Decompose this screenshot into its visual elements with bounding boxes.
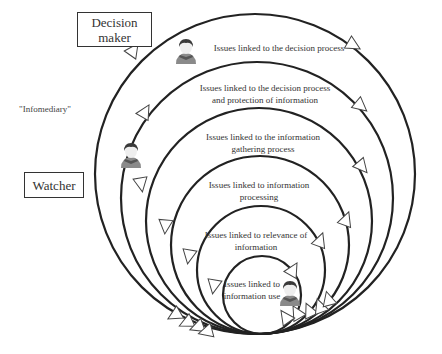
ring-3-label: Issues linked to the information gatheri… [206, 131, 320, 155]
decision-maker-label-line2: maker [91, 30, 137, 45]
watcher-box: Watcher [24, 172, 84, 198]
decision-maker-label-line1: Decision [91, 15, 137, 30]
ring-1-label: Issues linked to the decision process [214, 42, 345, 54]
ring-5-label: Issues linked to relevance of informatio… [205, 229, 307, 253]
ring-2-label: Issues linked to the decision process an… [200, 82, 331, 106]
decision-maker-box: Decision maker [77, 12, 152, 47]
ring-6-label: Issues linked to information use [224, 278, 281, 302]
ring-4-label: Issues linked to information processing [209, 179, 310, 203]
person-avatar-icon [279, 280, 301, 306]
infomediary-label: "Infomediary" [19, 104, 71, 114]
watcher-label: Watcher [33, 178, 76, 193]
person-avatar-icon [120, 142, 142, 168]
person-avatar-icon [175, 38, 197, 64]
